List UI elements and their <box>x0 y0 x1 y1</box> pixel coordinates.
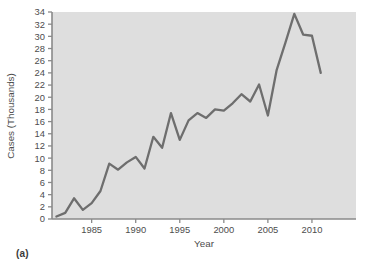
figure-panel-a: 0246810121416182022242628303234 19851990… <box>0 0 378 271</box>
x-axis-tick-label: 1995 <box>169 224 190 235</box>
y-axis-tick-label: 14 <box>35 128 45 139</box>
x-axis-title: Year <box>194 238 215 249</box>
x-axis-tick-labels: 198519901995200020052010 <box>81 224 322 235</box>
y-axis-tick-labels: 0246810121416182022242628303234 <box>35 6 45 224</box>
y-axis-tick-label: 20 <box>35 92 45 103</box>
y-axis-tick-label: 6 <box>40 177 45 188</box>
y-axis-title: Cases (Thousands) <box>5 73 16 159</box>
y-axis-tick-label: 18 <box>35 104 45 115</box>
y-axis-tick-label: 16 <box>35 116 45 127</box>
y-axis-tick-label: 24 <box>35 67 45 78</box>
y-axis-tick-label: 12 <box>35 140 45 151</box>
y-axis-tick-label: 8 <box>40 165 45 176</box>
x-axis-tick-label: 2000 <box>213 224 234 235</box>
y-axis-tick-label: 26 <box>35 55 45 66</box>
x-axis-tick-label: 1985 <box>81 224 102 235</box>
y-axis-tick-label: 4 <box>40 189 45 200</box>
x-axis-tick-label: 2010 <box>302 224 323 235</box>
line-chart: 0246810121416182022242628303234 19851990… <box>0 0 378 271</box>
y-axis-tick-label: 32 <box>35 19 45 30</box>
y-axis-tick-label: 22 <box>35 79 45 90</box>
y-axis-tick-label: 30 <box>35 31 45 42</box>
y-axis-tick-label: 28 <box>35 43 45 54</box>
y-axis-tick-label: 0 <box>40 213 45 224</box>
y-axis-tick-label: 34 <box>35 6 45 17</box>
y-axis-tick-label: 10 <box>35 153 45 164</box>
x-axis-tick-label: 1990 <box>125 224 146 235</box>
figure-caption: (a) <box>16 248 29 259</box>
x-axis-tick-label: 2005 <box>257 224 278 235</box>
y-axis-tick-label: 2 <box>40 201 45 212</box>
